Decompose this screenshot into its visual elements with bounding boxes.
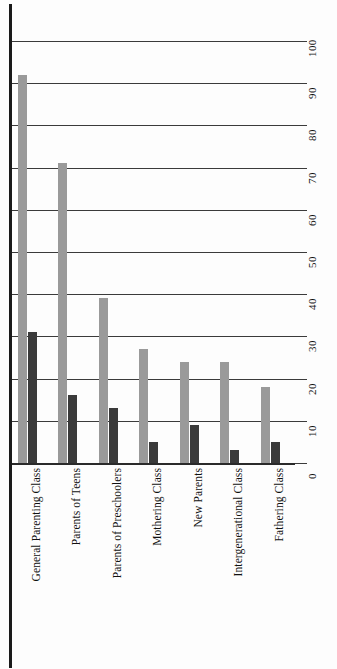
bar-series-2-5: [190, 425, 199, 463]
y-tick-label-10: 10: [306, 407, 318, 437]
bar-group: [18, 41, 37, 463]
y-tick-label-0: 0: [306, 449, 318, 479]
bar-group: [261, 41, 280, 463]
bar-series-2-2: [68, 395, 77, 463]
y-tick-label-100: 100: [306, 27, 318, 57]
y-tick-label-50: 50: [306, 238, 318, 268]
bar-group: [139, 41, 158, 463]
bar-series-2-3: [109, 408, 118, 463]
bar-series-1-3: [99, 298, 108, 463]
category-axis-labels: General Parenting ClassParents of TeensP…: [12, 468, 295, 668]
category-label: General Parenting Class: [30, 468, 42, 581]
y-tick-label-90: 90: [306, 69, 318, 99]
bar-group: [99, 41, 118, 463]
bar-series-1-2: [58, 163, 67, 463]
bars-layer: [12, 41, 295, 463]
bar-series-1-1: [18, 75, 27, 463]
y-tick-label-20: 20: [306, 365, 318, 395]
bar-series-1-4: [139, 349, 148, 463]
bar-series-2-1: [28, 332, 37, 463]
bar-series-1-6: [220, 362, 229, 463]
bar-group: [58, 41, 77, 463]
category-label: Mothering Class: [151, 468, 163, 546]
bar-series-1-7: [261, 387, 270, 463]
y-tick-label-70: 70: [306, 154, 318, 184]
gridline-0: [12, 463, 295, 465]
bar-series-2-4: [149, 442, 158, 463]
bar-group: [220, 41, 239, 463]
bar-series-2-6: [230, 450, 239, 463]
y-tick-label-30: 30: [306, 322, 318, 352]
category-label: New Parents: [192, 468, 204, 528]
bar-chart: 0102030405060708090100 General Parenting…: [0, 0, 337, 669]
category-label: Parents of Teens: [70, 468, 82, 545]
category-label: Fathering Class: [273, 468, 285, 541]
bar-series-1-5: [180, 362, 189, 463]
category-label: Parents of Preschoolers: [111, 468, 123, 578]
y-tick-label-60: 60: [306, 196, 318, 226]
category-label: Intergenerational Class: [232, 468, 244, 576]
bar-series-2-7: [271, 442, 280, 463]
y-tick-label-80: 80: [306, 111, 318, 141]
y-tick-label-40: 40: [306, 280, 318, 310]
bar-group: [180, 41, 199, 463]
